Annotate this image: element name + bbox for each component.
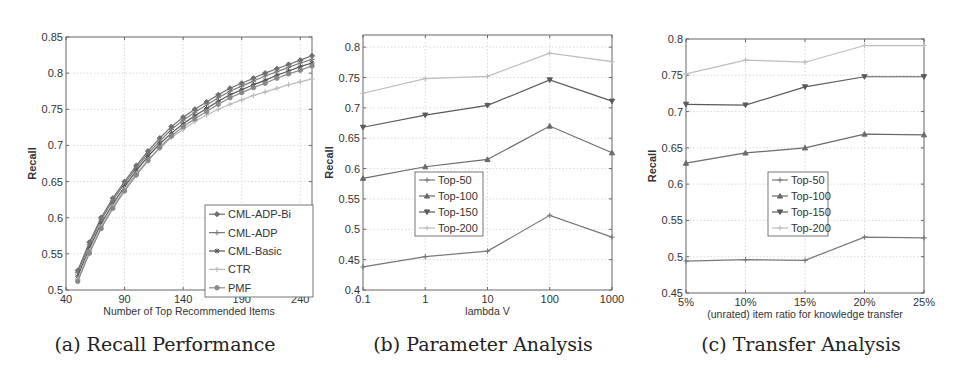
y-tick-label: 0.8: [48, 67, 63, 79]
circle-marker: [216, 102, 220, 106]
caption-recall-performance: (a) Recall Performance: [50, 333, 280, 355]
y-axis-label: Recall: [323, 146, 335, 178]
legend-entry: Top-50: [438, 174, 472, 186]
legend-entry: PMF: [228, 282, 252, 294]
circle-marker: [310, 64, 314, 68]
circle-marker: [99, 226, 103, 230]
circle-marker: [111, 206, 115, 210]
caption-parameter-analysis: (b) Parameter Analysis: [358, 333, 608, 355]
y-tick-label: 0.5: [668, 251, 683, 263]
circle-marker: [76, 279, 80, 283]
x-tick-label: 90: [118, 293, 130, 305]
legend-entry: Top-100: [791, 190, 831, 202]
legend: Top-50Top-100Top-150Top-200: [415, 172, 483, 236]
legend-entry: Top-50: [791, 174, 825, 186]
legend-entry: CML-ADP: [228, 227, 278, 239]
legend-entry: Top-200: [438, 222, 478, 234]
y-tick-label: 0.65: [662, 142, 683, 154]
circle-marker: [228, 96, 232, 100]
y-tick-label: 0.55: [662, 214, 683, 226]
y-tick-label: 0.55: [339, 193, 360, 205]
x-tick-label: 1000: [600, 293, 624, 305]
circle-marker: [204, 109, 208, 113]
panel-recall-performance: 0.50.550.60.650.70.750.80.85409014019024…: [0, 0, 323, 380]
y-tick-label: 0.5: [345, 223, 360, 235]
legend-entry: CML-ADP-Bi: [228, 208, 291, 220]
y-tick-label: 0.7: [48, 139, 63, 151]
circle-marker: [193, 116, 197, 120]
circle-marker: [146, 158, 150, 162]
y-tick-label: 0.7: [345, 102, 360, 114]
x-axis-label: lambda V: [465, 305, 509, 317]
y-tick-label: 0.45: [339, 254, 360, 266]
x-axis-label: (unrated) item ratio for knowledge trans…: [707, 308, 903, 320]
y-axis-label: Recall: [26, 147, 38, 179]
circle-marker: [122, 189, 126, 193]
legend-entry: Top-150: [438, 206, 478, 218]
circle-marker: [240, 90, 244, 94]
y-tick-label: 0.6: [345, 163, 360, 175]
chart-transfer-analysis: 0.450.50.550.60.650.70.750.85%10%15%20%2…: [646, 0, 969, 330]
x-tick-label: 5%: [678, 296, 694, 308]
x-tick-label: 40: [60, 293, 72, 305]
y-axis-label: Recall: [646, 150, 658, 182]
circle-marker: [158, 145, 162, 149]
circle-marker: [286, 72, 290, 76]
y-tick-label: 0.6: [48, 212, 63, 224]
y-tick-label: 0.75: [42, 103, 63, 115]
y-tick-label: 0.65: [42, 176, 63, 188]
panel-parameter-analysis: 0.40.450.50.550.60.650.70.750.80.1110100…: [323, 0, 646, 380]
x-tick-label: 1: [422, 293, 428, 305]
x-tick-label: 100: [541, 293, 559, 305]
circle-marker: [298, 68, 302, 72]
y-tick-label: 0.8: [668, 33, 683, 45]
y-tick-label: 0.65: [339, 132, 360, 144]
legend: CML-ADP-BiCML-ADPCML-BasicCTRPMF: [205, 205, 313, 297]
legend-entry: Top-200: [791, 222, 831, 234]
circle-marker: [215, 286, 219, 290]
x-tick-label: 20%: [853, 296, 875, 308]
chart-recall-performance: 0.50.550.60.650.70.750.80.85409014019024…: [0, 0, 323, 330]
x-axis-label: Number of Top Recommended Items: [103, 305, 274, 317]
x-tick-label: 25%: [913, 296, 935, 308]
circle-marker: [251, 85, 255, 89]
legend-entry: Top-100: [438, 190, 478, 202]
x-tick-label: 140: [174, 293, 192, 305]
circle-marker: [169, 134, 173, 138]
y-tick-label: 0.6: [668, 178, 683, 190]
legend-entry: Top-150: [791, 206, 831, 218]
star-marker: [214, 248, 219, 253]
y-tick-label: 0.75: [662, 69, 683, 81]
chart-parameter-analysis: 0.40.450.50.550.60.650.70.750.80.1110100…: [323, 0, 646, 330]
circle-marker: [87, 251, 91, 255]
legend: Top-50Top-100Top-150Top-200: [768, 172, 831, 236]
y-tick-label: 0.7: [668, 106, 683, 118]
circle-marker: [275, 76, 279, 80]
legend-entry: CML-Basic: [228, 245, 282, 257]
x-tick-label: 0.1: [355, 293, 370, 305]
x-tick-label: 15%: [794, 296, 816, 308]
y-tick-label: 0.8: [345, 41, 360, 53]
circle-marker: [181, 124, 185, 128]
y-tick-label: 0.55: [42, 248, 63, 260]
caption-transfer-analysis: (c) Transfer Analysis: [686, 333, 916, 355]
y-tick-label: 0.85: [42, 31, 63, 43]
panel-transfer-analysis: 0.450.50.550.60.650.70.750.85%10%15%20%2…: [646, 0, 969, 380]
circle-marker: [134, 173, 138, 177]
y-tick-label: 0.75: [339, 72, 360, 84]
x-tick-label: 10: [481, 293, 493, 305]
circle-marker: [263, 81, 267, 85]
x-tick-label: 10%: [734, 296, 756, 308]
legend-entry: CTR: [228, 263, 251, 275]
